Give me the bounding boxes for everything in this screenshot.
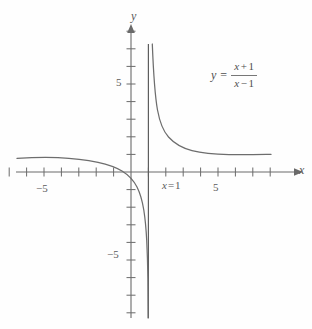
function-equation: y = x+1 x−1 [211, 60, 257, 91]
numerator-constant: 1 [248, 60, 254, 72]
y-tick-label-5: 5 [116, 77, 122, 88]
y-axis-label: y [131, 10, 136, 22]
graph-canvas [0, 0, 312, 329]
asymptote-value: 1 [175, 179, 181, 191]
equation-fraction: x+1 x−1 [231, 60, 257, 91]
asymptote-annotation: x=1 [162, 180, 181, 191]
y-tick-label-negative-5: −5 [107, 249, 119, 260]
equation-equals-sign: = [216, 68, 231, 83]
x-tick-label-5: 5 [213, 182, 219, 193]
fraction-bar [231, 75, 257, 76]
equation-numerator: x+1 [232, 60, 256, 74]
asymptote-equals: = [167, 179, 175, 191]
equation-denominator: x−1 [232, 77, 256, 91]
x-axis-label: x [299, 164, 304, 176]
rational-function-figure: y x −5 5 5 −5 x=1 y = x+1 x−1 [0, 0, 312, 329]
denominator-constant: 1 [248, 77, 254, 89]
x-tick-label-negative-5: −5 [36, 183, 48, 194]
